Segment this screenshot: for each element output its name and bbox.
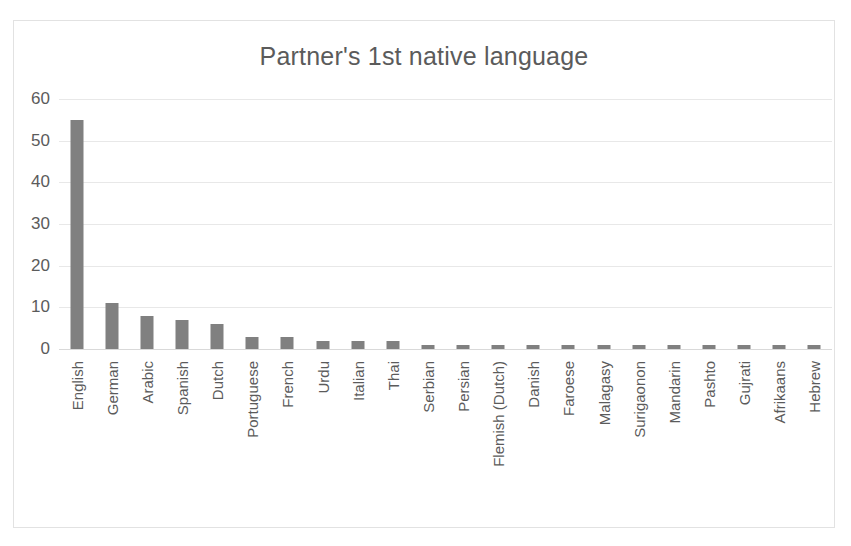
bar-slot [164, 99, 199, 349]
x-tick-label: German [104, 361, 119, 415]
bar[interactable] [527, 345, 540, 349]
bar[interactable] [421, 345, 434, 349]
bar-slot [656, 99, 691, 349]
bar-slot [762, 99, 797, 349]
category-slot: Spanish [164, 357, 199, 517]
bar[interactable] [70, 120, 83, 349]
bar[interactable] [492, 345, 505, 349]
category-slot: Hebrew [797, 357, 832, 517]
x-tick-label: Urdu [315, 361, 330, 394]
x-tick-label: Hebrew [807, 361, 822, 413]
x-tick-label: English [69, 361, 84, 410]
y-tick-label-20: 20 [31, 256, 50, 276]
bar[interactable] [632, 345, 645, 349]
x-tick-label: French [280, 361, 295, 408]
category-slot: Malagasy [586, 357, 621, 517]
x-tick-label: Thai [385, 361, 400, 390]
bar-slot [481, 99, 516, 349]
bar-slot [727, 99, 762, 349]
y-tick-label-40: 40 [31, 172, 50, 192]
bar-slot [305, 99, 340, 349]
category-slot: French [270, 357, 305, 517]
category-slot: Gujrati [727, 357, 762, 517]
gridline-0 [59, 349, 832, 350]
bar-slot [129, 99, 164, 349]
bar[interactable] [808, 345, 821, 349]
chart-title: Partner's 1st native language [14, 42, 834, 71]
bar-slot [200, 99, 235, 349]
x-tick-label: Danish [526, 361, 541, 408]
bar[interactable] [316, 341, 329, 349]
category-slot: Pashto [691, 357, 726, 517]
bar[interactable] [597, 345, 610, 349]
bar-slot [94, 99, 129, 349]
category-slot: Thai [375, 357, 410, 517]
bar[interactable] [773, 345, 786, 349]
category-slot: English [59, 357, 94, 517]
bar-slot [797, 99, 832, 349]
bar[interactable] [175, 320, 188, 349]
bar-slot [551, 99, 586, 349]
x-tick-label: Serbian [420, 361, 435, 413]
category-slot: Faroese [551, 357, 586, 517]
x-tick-label: Flemish (Dutch) [491, 361, 506, 467]
bar[interactable] [703, 345, 716, 349]
category-slot: Dutch [200, 357, 235, 517]
bar[interactable] [281, 337, 294, 350]
category-slot: Arabic [129, 357, 164, 517]
category-slot: Persian [446, 357, 481, 517]
x-tick-label: Pashto [702, 361, 717, 408]
bar-slot [59, 99, 94, 349]
bar[interactable] [246, 337, 259, 350]
category-slot: Danish [516, 357, 551, 517]
chart-frame: Partner's 1st native language 6050403020… [13, 20, 835, 528]
y-tick-label-0: 0 [41, 339, 50, 359]
category-slot: Portuguese [235, 357, 270, 517]
category-slot: Surigaonon [621, 357, 656, 517]
plot-area: 6050403020100 [59, 99, 832, 349]
category-slot: Urdu [305, 357, 340, 517]
bar-slot [446, 99, 481, 349]
bar-slot [586, 99, 621, 349]
bar-slot [270, 99, 305, 349]
bar-slot [691, 99, 726, 349]
x-tick-label: Mandarin [666, 361, 681, 424]
y-tick-label-60: 60 [31, 89, 50, 109]
category-slot: German [94, 357, 129, 517]
x-tick-label: Portuguese [245, 361, 260, 438]
bar-slot [235, 99, 270, 349]
y-tick-label-10: 10 [31, 297, 50, 317]
bar[interactable] [738, 345, 751, 349]
bar-slot [410, 99, 445, 349]
bar-slot [621, 99, 656, 349]
category-slot: Afrikaans [762, 357, 797, 517]
bar-series [59, 99, 832, 349]
y-tick-label-50: 50 [31, 131, 50, 151]
x-tick-label: Surigaonon [631, 361, 646, 438]
bar[interactable] [140, 316, 153, 349]
bar[interactable] [457, 345, 470, 349]
category-slot: Italian [340, 357, 375, 517]
x-tick-label: Italian [350, 361, 365, 401]
bar[interactable] [562, 345, 575, 349]
bar[interactable] [386, 341, 399, 349]
x-tick-label: Dutch [210, 361, 225, 400]
bar[interactable] [351, 341, 364, 349]
x-tick-label: Persian [456, 361, 471, 412]
x-tick-label: Arabic [139, 361, 154, 404]
x-tick-label: Spanish [174, 361, 189, 415]
bar-slot [516, 99, 551, 349]
bar[interactable] [667, 345, 680, 349]
y-tick-label-30: 30 [31, 214, 50, 234]
bar-slot [375, 99, 410, 349]
category-slot: Mandarin [656, 357, 691, 517]
bar[interactable] [105, 303, 118, 349]
x-tick-label: Gujrati [737, 361, 752, 405]
category-slot: Serbian [410, 357, 445, 517]
category-slot: Flemish (Dutch) [481, 357, 516, 517]
x-tick-label: Afrikaans [772, 361, 787, 424]
bar[interactable] [211, 324, 224, 349]
x-tick-label: Malagasy [596, 361, 611, 425]
bar-slot [340, 99, 375, 349]
x-tick-label: Faroese [561, 361, 576, 416]
